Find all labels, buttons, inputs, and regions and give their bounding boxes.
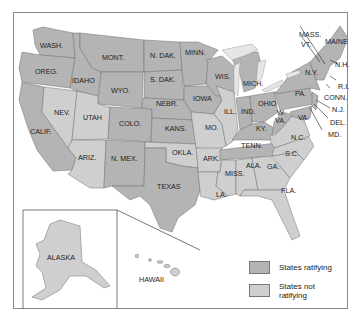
label-ohio: OHIO: [258, 99, 277, 108]
label-hawaii: HAWAII: [139, 275, 164, 284]
label-ill: ILL.: [224, 107, 236, 116]
label-md: MD.: [328, 130, 341, 139]
label-fla: FLA.: [281, 186, 296, 195]
label-miss: MISS.: [225, 169, 245, 178]
label-conn: CONN.: [324, 93, 347, 102]
label-vt: VT.: [301, 40, 311, 49]
label-mass: MASS.: [299, 30, 321, 39]
label-nev: NEV.: [54, 108, 70, 117]
legend-swatch-ratifying: [249, 261, 270, 274]
state-fla[interactable]: [240, 190, 300, 240]
label-wis: WIS.: [215, 72, 231, 81]
label-ark: ARK.: [203, 154, 220, 163]
label-ndak: N. DAK.: [150, 51, 176, 60]
legend-swatch-not-ratifying: [249, 284, 270, 297]
label-ri: R.I.: [338, 82, 349, 91]
label-okla: OKLA.: [172, 148, 193, 157]
label-mich: MICH.: [243, 79, 263, 88]
label-ariz: ARIZ.: [78, 153, 96, 162]
label-alaska: ALASKA: [47, 253, 75, 262]
label-del: DEL.: [330, 118, 346, 127]
label-mont: MONT.: [102, 53, 124, 62]
label-ga: GA.: [267, 162, 279, 171]
label-wva-2: VA.: [275, 116, 286, 125]
label-oreg: OREG.: [35, 67, 58, 76]
label-wyo: WYO.: [111, 86, 130, 95]
state-hawaii[interactable]: [135, 254, 179, 276]
label-ky: KY.: [256, 124, 267, 133]
label-texas: TEXAS: [157, 182, 181, 191]
label-maine: MAINE: [325, 37, 348, 46]
label-va: VA.: [298, 113, 309, 122]
label-utah: UTAH: [83, 113, 102, 122]
label-nc: N.C.: [291, 133, 305, 142]
label-ny: N.Y.: [305, 68, 318, 77]
lake-michigan: [234, 62, 240, 96]
label-ind: IND.: [241, 107, 255, 116]
legend-label-ratifying: States ratifying: [279, 263, 332, 272]
label-sdak: S. DAK.: [150, 75, 176, 84]
legend-label-not-ratifying: States not ratifying: [279, 282, 315, 300]
label-nmex: N. MEX.: [111, 154, 138, 163]
label-kans: KANS.: [165, 124, 187, 133]
label-minn: MINN.: [185, 48, 205, 57]
label-ala: ALA.: [246, 161, 262, 170]
legend-label-not-ratifying-line1: States not: [279, 282, 315, 291]
label-calif: CALIF.: [30, 127, 52, 136]
label-idaho: IDAHO: [72, 76, 95, 85]
label-tenn: TENN.: [241, 141, 263, 150]
label-nebr: NEBR.: [156, 99, 178, 108]
state-ky[interactable]: [232, 122, 274, 140]
state-nmex[interactable]: [104, 140, 145, 188]
label-pa: PA.: [295, 89, 306, 98]
label-sc: S.C.: [285, 149, 299, 158]
label-mo: MO.: [205, 123, 219, 132]
label-wash: WASH.: [40, 41, 63, 50]
label-nj: N.J.: [332, 105, 345, 114]
legend-label-not-ratifying-line2: ratifying: [279, 291, 315, 300]
label-nh: N.H.: [335, 60, 349, 69]
label-la: LA.: [216, 190, 227, 199]
label-colo: COLO.: [119, 119, 141, 128]
label-iowa: IOWA: [193, 94, 212, 103]
